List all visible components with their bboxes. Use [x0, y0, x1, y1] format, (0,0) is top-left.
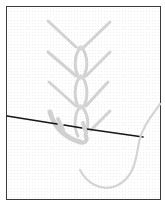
stitch-illustration: [0, 0, 165, 205]
chain-loop-2: [75, 78, 87, 106]
needle-shaft-right: [87, 129, 143, 137]
bottom-loop-right-arc: [80, 136, 87, 143]
arm-row1-left: [48, 21, 76, 47]
chain-loop-1: [75, 48, 87, 76]
arm-row1-right: [84, 22, 110, 47]
arm-row2-left: [48, 52, 76, 76]
arm-row3-left: [49, 82, 76, 106]
chain-knot-3: [77, 105, 85, 110]
arm-row2-right: [86, 52, 110, 76]
arm-row4-right: [91, 111, 110, 130]
arm-row3-right: [86, 82, 108, 106]
thread-cross-2: [83, 123, 86, 133]
chain-knot-2: [77, 75, 85, 80]
needle-shaft-mid: [64, 125, 82, 128]
working-thread: [80, 104, 160, 188]
chain-knot-1: [77, 46, 85, 51]
